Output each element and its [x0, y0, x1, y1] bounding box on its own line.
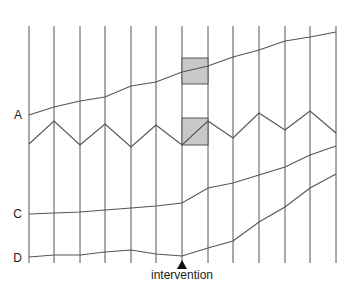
intervention-label: intervention: [151, 268, 213, 282]
series-labels: ACD: [13, 108, 22, 265]
diagram-canvas: ACD intervention: [0, 0, 353, 295]
series-label-c: C: [13, 207, 22, 221]
series-label-d: D: [13, 251, 22, 265]
intervention-marker: intervention: [151, 260, 213, 282]
series-label-a: A: [14, 108, 22, 122]
